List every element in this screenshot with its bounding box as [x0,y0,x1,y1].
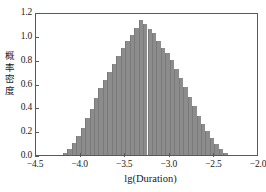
plot-area [35,13,258,156]
x-tick-label: −4.5 [18,159,52,169]
histogram-figure: 概率密度 lg(Duration) 0.00.20.40.60.81.01.2−… [0,0,266,192]
y-tick-mark [35,132,39,133]
x-tick-label: −3.5 [107,159,141,169]
y-tick-mark [35,13,39,14]
y-tick-label: 0.8 [4,56,32,66]
x-tick-label: −2.5 [196,159,230,169]
y-tick-mark [35,156,39,157]
y-tick-mark [35,108,39,109]
y-tick-label: 1.2 [4,8,32,18]
histogram-bars [36,14,257,155]
y-tick-label: 0.4 [4,103,32,113]
x-tick-label: −3.0 [152,159,186,169]
x-tick-mark [80,153,81,157]
y-tick-mark [35,85,39,86]
x-tick-mark [213,153,214,157]
x-tick-label: −4.0 [63,159,97,169]
y-tick-mark [35,61,39,62]
y-tick-label: 1.0 [4,32,32,42]
x-tick-label: −2.0 [241,159,266,169]
y-tick-label: 0.6 [4,80,32,90]
x-tick-mark [124,153,125,157]
y-tick-mark [35,37,39,38]
x-axis-label: lg(Duration) [0,173,266,185]
y-tick-label: 0.2 [4,127,32,137]
histogram-bar [223,153,227,155]
x-tick-mark [169,153,170,157]
